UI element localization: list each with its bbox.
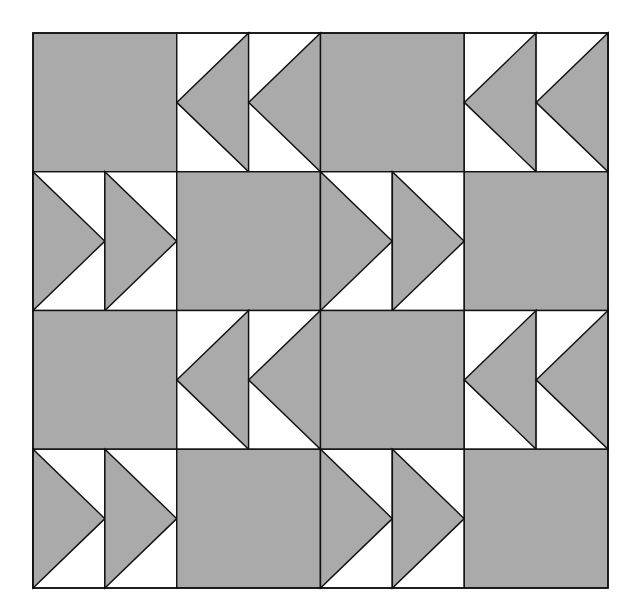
quilt-block-square bbox=[177, 172, 321, 311]
solid-square bbox=[33, 33, 177, 172]
quilt-block-square bbox=[321, 311, 465, 450]
solid-square bbox=[33, 311, 177, 450]
quilt-block-square bbox=[464, 449, 608, 588]
quilt-block-geese-left bbox=[177, 33, 321, 172]
quilt-block-geese-left bbox=[464, 311, 608, 450]
solid-square bbox=[177, 172, 321, 311]
quilt-block-square bbox=[464, 172, 608, 311]
quilt-block-geese-right bbox=[33, 172, 177, 311]
solid-square bbox=[321, 311, 465, 450]
quilt-block-square bbox=[321, 33, 465, 172]
quilt-diagram bbox=[0, 0, 639, 616]
solid-square bbox=[321, 33, 465, 172]
quilt-block-geese-right bbox=[321, 172, 465, 311]
quilt-blocks bbox=[33, 33, 608, 588]
quilt-block-square bbox=[33, 33, 177, 172]
quilt-block-geese-right bbox=[321, 449, 465, 588]
quilt-block-square bbox=[177, 449, 321, 588]
quilt-block-square bbox=[33, 311, 177, 450]
solid-square bbox=[177, 449, 321, 588]
quilt-block-geese-right bbox=[33, 449, 177, 588]
quilt-block-geese-left bbox=[177, 311, 321, 450]
quilt-block-geese-left bbox=[464, 33, 608, 172]
solid-square bbox=[464, 172, 608, 311]
solid-square bbox=[464, 449, 608, 588]
